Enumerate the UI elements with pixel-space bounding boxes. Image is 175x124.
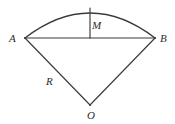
label-point-a: A bbox=[9, 33, 16, 44]
radius-segment-ao bbox=[25, 38, 90, 105]
label-radius-r: R bbox=[46, 76, 53, 87]
radius-segment-bo bbox=[90, 38, 155, 105]
label-center-o: O bbox=[87, 110, 95, 121]
vertex-b-dot bbox=[154, 37, 156, 39]
vertex-o-dot bbox=[89, 104, 91, 106]
label-point-b: B bbox=[160, 33, 167, 44]
geometry-figure: A B M R O bbox=[0, 0, 175, 124]
figure-canvas bbox=[0, 0, 175, 124]
label-sagitta-m: M bbox=[92, 20, 101, 31]
vertex-a-dot bbox=[24, 37, 26, 39]
